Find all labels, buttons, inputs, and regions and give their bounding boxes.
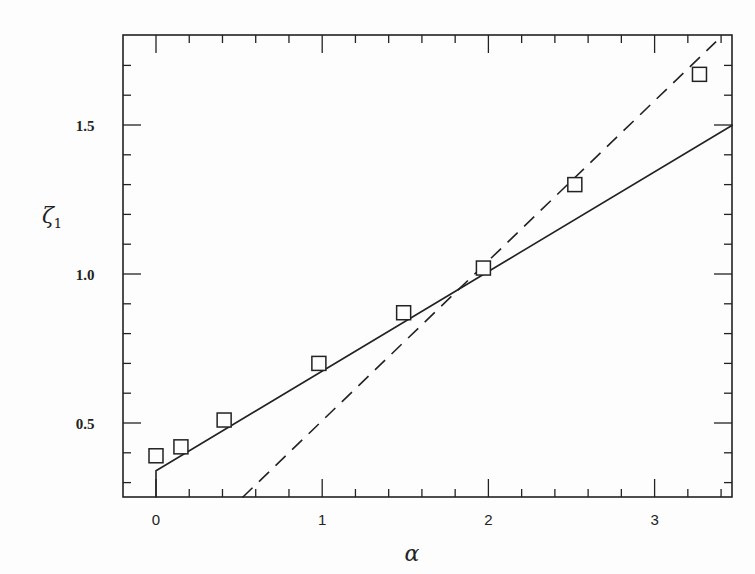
data-point-square	[174, 440, 188, 454]
x-tick-label: 2	[484, 511, 492, 528]
chart-canvas	[0, 0, 755, 574]
y-tick-label: 1.0	[76, 267, 95, 284]
data-point-square	[312, 356, 326, 370]
y-tick-label: 1.5	[76, 118, 95, 135]
x-axis-title: α	[405, 541, 420, 566]
y-tick-label: 0.5	[76, 416, 95, 433]
fit-lines	[156, 42, 733, 498]
solid-fit-line	[156, 125, 733, 498]
axis-ticks	[123, 35, 732, 497]
x-tick-label: 0	[152, 511, 160, 528]
x-tick-label: 1	[318, 511, 326, 528]
plot-border	[123, 35, 732, 497]
data-point-square	[217, 413, 231, 427]
data-point-square	[149, 449, 163, 463]
data-point-square	[692, 67, 706, 81]
data-point-square	[476, 261, 490, 275]
data-point-square	[397, 306, 411, 320]
data-point-square	[568, 178, 582, 192]
x-axis-title-text: α	[405, 541, 420, 566]
plot-frame	[123, 35, 732, 497]
data-points	[149, 67, 706, 462]
y-axis-title: ζ1	[42, 203, 62, 231]
x-tick-label: 3	[650, 511, 658, 528]
y-axis-title-subscript: 1	[54, 216, 62, 231]
y-axis-title-main: ζ	[42, 203, 54, 228]
